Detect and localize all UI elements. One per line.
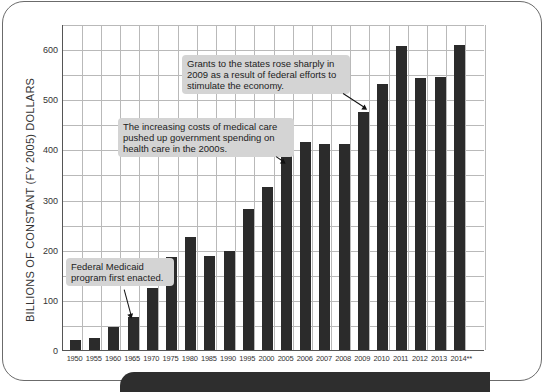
x-tick-label: 1950	[67, 354, 83, 363]
x-tick-label: 1980	[182, 354, 198, 363]
gridline-vertical	[465, 25, 466, 350]
gridline-vertical	[178, 25, 179, 350]
y-tick-label: 400	[43, 145, 58, 155]
x-tick-label: 2014**	[451, 354, 472, 363]
callout-line: health care in the 2000s.	[123, 143, 289, 154]
bar-1985	[204, 256, 215, 350]
x-tick-label: 1965	[124, 354, 140, 363]
x-tick-label: 2010	[374, 354, 390, 363]
gridline-vertical	[389, 25, 390, 350]
callout-line: The increasing costs of medical care	[123, 121, 289, 132]
x-tick-label: 1995	[239, 354, 255, 363]
bar-2009	[358, 112, 369, 350]
callout-medical-costs: The increasing costs of medical care pus…	[118, 118, 294, 157]
gridline-vertical	[446, 25, 447, 350]
gridline-vertical	[408, 25, 409, 350]
x-tick-label: 1960	[105, 354, 121, 363]
bar-2013	[435, 77, 446, 350]
y-tick-label: 0	[53, 346, 58, 356]
gridline-vertical	[158, 25, 159, 350]
x-tick-label: 2012	[412, 354, 428, 363]
x-tick-label: 2000	[258, 354, 274, 363]
x-tick-label: 2007	[316, 354, 332, 363]
callout-line: program first enacted.	[71, 272, 169, 283]
gridline-vertical	[485, 25, 486, 350]
bar-1990	[224, 251, 235, 350]
y-axis-label: BILLIONS OF CONSTANT (FY 2005) DOLLARS	[24, 78, 36, 322]
bar-2005	[281, 136, 292, 350]
y-tick-label: 600	[43, 45, 58, 55]
callout-grants: Grants to the states rose sharply in 200…	[182, 55, 350, 94]
y-tick-label: 200	[43, 246, 58, 256]
gridline-vertical	[350, 25, 351, 350]
y-tick-label: 500	[43, 95, 58, 105]
x-tick-label: 1990	[220, 354, 236, 363]
bar-2006	[300, 142, 311, 350]
x-tick-label: 2009	[354, 354, 370, 363]
gridline-vertical	[139, 25, 140, 350]
bar-1970	[147, 288, 158, 350]
gridline-vertical	[82, 25, 83, 350]
callout-line: pushed up government spending on	[123, 132, 289, 143]
y-tick-label: 100	[43, 296, 58, 306]
bottom-banner	[120, 372, 490, 392]
x-tick-label: 2005	[278, 354, 294, 363]
bar-1980	[185, 237, 196, 350]
x-tick-label: 2013	[431, 354, 447, 363]
x-tick-label: 1985	[201, 354, 217, 363]
x-tick-label: 2006	[297, 354, 313, 363]
bar-2012	[415, 78, 426, 350]
y-tick-label: 300	[43, 196, 58, 206]
callout-line: Grants to the states rose sharply in	[187, 58, 345, 69]
bar-1950	[70, 340, 81, 350]
bar-2014**	[454, 45, 465, 350]
bar-2011	[396, 46, 407, 350]
callout-line: stimulate the economy.	[187, 80, 345, 91]
callout-medicaid: Federal Medicaid program first enacted.	[66, 258, 174, 286]
x-tick-label: 2008	[335, 354, 351, 363]
gridline-vertical	[427, 25, 428, 350]
x-tick-label: 2011	[393, 354, 408, 363]
bar-2010	[377, 84, 388, 350]
x-tick-label: 1975	[163, 354, 179, 363]
callout-line: Federal Medicaid	[71, 261, 169, 272]
bar-1965	[128, 317, 139, 350]
gridline-vertical	[120, 25, 121, 350]
bar-1960	[108, 327, 119, 350]
gridline-vertical	[101, 25, 102, 350]
x-tick-label: 1970	[143, 354, 159, 363]
bar-2000	[262, 187, 273, 350]
callout-line: 2009 as a result of federal efforts to	[187, 69, 345, 80]
bar-1955	[89, 338, 100, 350]
bar-2007	[319, 144, 330, 350]
gridline-vertical	[369, 25, 370, 350]
bar-1995	[243, 209, 254, 350]
bar-2008	[339, 144, 350, 350]
x-tick-label: 1955	[86, 354, 102, 363]
